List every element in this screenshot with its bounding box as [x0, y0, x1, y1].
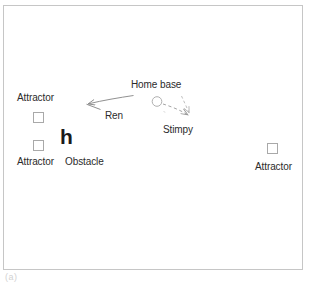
label-attractor-right: Attractor: [255, 161, 292, 172]
attractor-marker-upper-left: [33, 112, 44, 123]
label-attractor-top-left: Attractor: [17, 92, 54, 103]
home-base-marker: [152, 97, 162, 107]
attractor-marker-lower-left: [33, 140, 44, 151]
simulation-arena-figure: h Attractor Attractor Attractor Obstacle…: [0, 0, 314, 284]
figure-caption: (a): [5, 272, 18, 282]
attractor-marker-right: [267, 143, 278, 154]
obstacle-marker: h: [60, 126, 73, 147]
stimpy-secondary-trajectory: [164, 96, 190, 113]
label-obstacle: Obstacle: [65, 156, 104, 167]
stimpy-trajectory-arrow: [163, 104, 188, 115]
trajectory-layer: [0, 0, 314, 284]
label-stimpy: Stimpy: [163, 124, 193, 135]
label-home-base: Home base: [131, 79, 181, 90]
label-attractor-bottom-left: Attractor: [17, 156, 54, 167]
label-ren: Ren: [105, 110, 123, 121]
ren-trajectory-arrow: [87, 96, 134, 110]
